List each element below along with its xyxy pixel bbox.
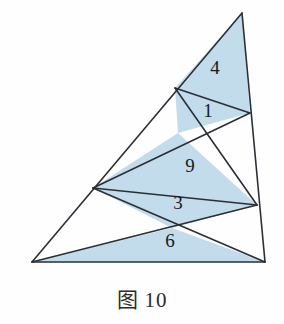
area-label-1: 1 — [203, 100, 213, 121]
area-label-3: 3 — [173, 192, 183, 213]
figure-canvas: 4 1 9 3 6 — [0, 0, 284, 324]
area-label-6: 6 — [165, 230, 175, 251]
caption-number: 10 — [145, 288, 168, 312]
area-label-4: 4 — [210, 57, 220, 78]
geometry-figure: 4 1 9 3 6 图10 — [0, 0, 284, 324]
edge-right-line — [242, 13, 265, 262]
shaded-regions — [32, 13, 265, 262]
caption-label: 图 — [117, 288, 139, 312]
figure-caption: 图10 — [0, 283, 284, 313]
area-label-9: 9 — [185, 155, 195, 176]
